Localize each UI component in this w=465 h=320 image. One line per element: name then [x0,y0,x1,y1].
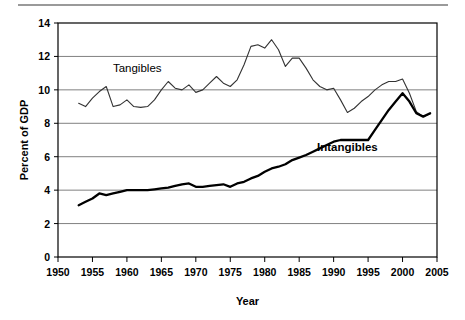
x-tick-label: 1955 [81,266,105,278]
y-tick-label: 6 [44,151,50,163]
y-tick-label: 12 [38,50,50,62]
plot-frame [58,23,437,257]
x-tick-label: 1990 [322,266,346,278]
x-tick-label: 1985 [288,266,312,278]
y-tick-label: 2 [44,218,50,230]
series-annotation-tangibles: Tangibles [113,62,162,74]
y-tick-label: 4 [44,184,50,196]
y-tick-label: 14 [38,17,50,29]
x-tick-label: 1995 [356,266,380,278]
x-tick-label: 1975 [219,266,243,278]
y-axis: 02468101214 [38,17,58,263]
x-axis: 1950195519601965197019751980198519901995… [46,257,449,278]
x-tick-label: 1960 [115,266,139,278]
x-tick-label: 1980 [253,266,277,278]
series-annotation-intangibles: Intangibles [317,141,378,153]
gridlines [58,56,437,223]
x-tick-label: 1950 [46,266,70,278]
x-tick-label: 2000 [391,266,415,278]
y-tick-label: 0 [44,251,50,263]
x-axis-title: Year [236,295,260,307]
x-tick-label: 1965 [150,266,174,278]
series-line-tangibles [79,40,430,117]
y-tick-label: 10 [38,84,50,96]
chart-figure: 0246810121419501955196019651970197519801… [0,0,465,320]
y-tick-label: 8 [44,117,50,129]
line-chart: 0246810121419501955196019651970197519801… [0,0,465,320]
x-tick-label: 1970 [184,266,208,278]
y-axis-title: Percent of GDP [18,100,30,181]
x-tick-label: 2005 [425,266,449,278]
